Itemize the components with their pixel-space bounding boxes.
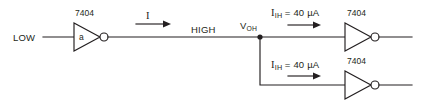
top-load-inverter-bubble xyxy=(371,33,379,41)
bottom-load-current-arrow-head xyxy=(313,73,321,80)
top-load-part-number-label: 7404 xyxy=(347,8,366,18)
bottom-load-inverter-bubble xyxy=(371,81,379,89)
top-load-current-label: IIH= 40 µA xyxy=(271,7,320,20)
driver-gate-id-label: a xyxy=(79,32,84,42)
bottom-load-current-label: IIH= 40 µA xyxy=(271,59,320,72)
node-voltage-label: VOH xyxy=(240,20,257,32)
bottom-load-part-number-label: 7404 xyxy=(347,56,366,66)
node-voltage-subscript: OH xyxy=(247,25,258,32)
drive-current-arrow-head xyxy=(163,21,171,28)
input-level-label: LOW xyxy=(13,32,35,43)
circuit-diagram: LOW 7404 a I HIGH VOH IIH= 40 µA 7404 II… xyxy=(0,0,421,110)
driver-inverter-triangle xyxy=(74,23,100,51)
driver-part-number-label: 7404 xyxy=(75,8,94,18)
bottom-load-current-value: = 40 µA xyxy=(285,59,320,70)
drive-current-label: I xyxy=(146,10,150,21)
driver-inverter-bubble xyxy=(100,33,108,41)
top-load-current-subscript: IH xyxy=(275,11,283,20)
bottom-load-inverter-triangle xyxy=(345,71,371,99)
circuit-canvas: LOW 7404 a I HIGH VOH IIH= 40 µA 7404 II… xyxy=(0,0,421,110)
output-level-label: HIGH xyxy=(191,24,216,35)
top-load-current-value: = 40 µA xyxy=(285,7,320,18)
top-load-current-arrow-head xyxy=(313,22,321,29)
top-load-inverter-triangle xyxy=(345,23,371,51)
bottom-load-current-subscript: IH xyxy=(275,63,283,72)
